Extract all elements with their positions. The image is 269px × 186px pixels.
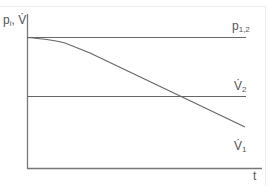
diagram: pi, V p1,2 V2 V1 t: [0, 0, 269, 186]
y-axis-label: pi, V: [3, 14, 26, 30]
label-v1: V1: [234, 140, 246, 156]
line-v1: [27, 38, 245, 128]
label-v2: V2: [234, 80, 246, 96]
plot-area: [0, 0, 269, 186]
x-axis-label: t: [253, 170, 256, 182]
label-p12: p1,2: [232, 20, 250, 36]
